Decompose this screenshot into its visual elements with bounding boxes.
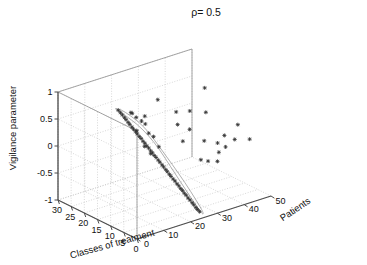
data-point-marker (143, 122, 147, 126)
z-axis-title: Vigilance parameter (7, 86, 18, 170)
data-point-marker (184, 193, 188, 197)
z-tick-label: -1 (44, 195, 52, 205)
data-point-marker (217, 150, 221, 154)
y-tick-label: 10 (168, 230, 178, 240)
data-point-marker (181, 189, 185, 193)
data-point-marker (188, 109, 192, 113)
data-point-marker (143, 114, 147, 118)
data-point-marker (224, 145, 228, 149)
data-point-marker (233, 137, 237, 141)
data-point-marker (176, 123, 180, 127)
data-point-marker (147, 131, 151, 135)
data-point-marker (147, 146, 151, 150)
z-tick-label: -0.5 (37, 168, 53, 178)
data-point-marker (248, 137, 252, 141)
data-point-marker (156, 98, 160, 102)
data-point-marker (173, 179, 177, 183)
data-point-marker (204, 110, 208, 114)
chart-title: ρ= 0.5 (191, 6, 221, 18)
y-tick-label: 50 (275, 196, 285, 206)
data-point-marker (199, 158, 203, 162)
chart-container: 10.50-0.5-130252015105001020304050 ρ= 0.… (0, 0, 367, 265)
data-point-marker (202, 139, 206, 143)
z-tick-label: 0.5 (40, 114, 53, 124)
data-point-marker (143, 144, 147, 148)
data-point-marker (140, 119, 144, 123)
data-point-marker (135, 129, 139, 133)
y-tick-label: 30 (222, 213, 232, 223)
data-point-marker (152, 135, 156, 139)
x-tick-label: 30 (52, 205, 62, 215)
data-point-marker (130, 111, 134, 115)
data-point-marker (174, 110, 178, 114)
z-tick-label: 0 (47, 141, 52, 151)
data-point-marker (177, 184, 181, 188)
y-tick-label: 40 (249, 204, 259, 214)
x-tick-label: 20 (78, 218, 88, 228)
data-point-marker (139, 137, 143, 141)
data-point-marker (198, 210, 202, 214)
data-point-marker (157, 145, 161, 149)
data-point-marker (203, 86, 207, 90)
data-point-marker (134, 115, 138, 119)
data-point-marker (222, 133, 226, 137)
x-tick-label: 0 (133, 244, 138, 254)
data-point-marker (188, 127, 192, 131)
x-tick-label: 25 (65, 212, 75, 222)
x-tick-label: 15 (91, 225, 101, 235)
data-point-marker (149, 152, 153, 156)
data-point-marker (206, 159, 210, 163)
data-point-marker (215, 159, 219, 163)
scatter3d-chart: 10.50-0.5-130252015105001020304050 ρ= 0.… (0, 0, 367, 265)
data-point-marker (181, 139, 185, 143)
data-point-marker (216, 141, 220, 145)
data-point-marker (236, 123, 240, 127)
y-tick-label: 20 (195, 221, 205, 231)
z-tick-label: 1 (47, 87, 52, 97)
